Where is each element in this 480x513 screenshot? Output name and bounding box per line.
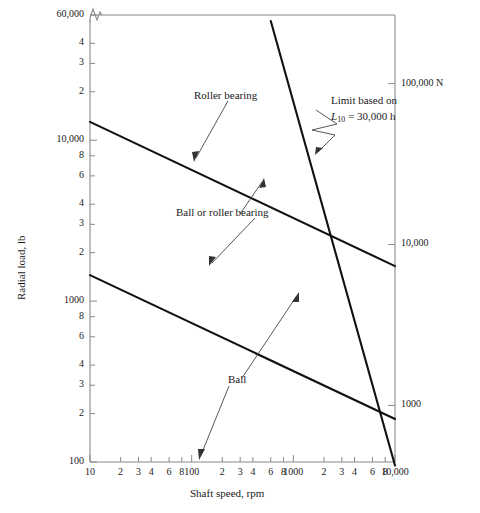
- series-roller-bearing: [90, 122, 395, 266]
- y-tick-label-4000: 4: [18, 198, 84, 208]
- leader-ball-up: [242, 297, 296, 378]
- limit-L-subscript: 10: [337, 115, 345, 124]
- y-tick-label-6000: 6: [18, 170, 84, 180]
- annotation-limit-line1: Limit based on: [331, 95, 397, 106]
- y-tick-label-100: 100: [18, 456, 84, 466]
- y-tick-label-10000: 10,000: [18, 134, 84, 144]
- y-tick-label-40000: 4: [18, 37, 84, 47]
- y-tick-label-2000: 2: [18, 247, 84, 257]
- y-axis-right-ticks: [388, 84, 395, 406]
- x-axis-ticks: [90, 455, 395, 462]
- leader-ball-down: [201, 386, 229, 455]
- y-tick-label-200: 2: [18, 408, 84, 418]
- arrowhead-ball-down: [198, 449, 205, 460]
- arrowhead-ball-up: [292, 292, 299, 302]
- data-series-group: [90, 21, 395, 466]
- y-right-tick-label-10000: 10,000: [401, 238, 480, 248]
- arrowhead-roller-bearing: [192, 151, 199, 162]
- y-axis-title: Radial load, lb: [16, 236, 27, 300]
- y-right-tick-label-100000: 100,000 N: [401, 78, 480, 88]
- annotation-leaders: [192, 101, 337, 460]
- annotation-roller-bearing: Roller bearing: [194, 90, 257, 101]
- y-tick-label-30000: 3: [18, 57, 84, 67]
- x-tick-label-10000: 10,000: [373, 467, 417, 477]
- annotation-ball-or-roller-bearing: Ball or roller bearing: [176, 207, 269, 218]
- arrowhead-ball-or-roller-up: [259, 178, 266, 188]
- annotation-ball: Ball: [228, 374, 246, 385]
- arrowhead-ball-or-roller-down: [209, 256, 216, 266]
- leader-ball-or-roller-down: [212, 218, 255, 263]
- y-axis-ticks: [90, 15, 97, 462]
- series-limit-based-on-l10-30-000-h: [271, 21, 395, 466]
- leader-roller-bearing: [196, 101, 228, 158]
- series-ball-or-roller-bearing: [90, 275, 395, 419]
- y-tick-label-20000: 2: [18, 86, 84, 96]
- y-right-tick-label-1000: 1000: [401, 399, 480, 409]
- bearing-load-speed-chart: 60,00043210,00086432100086432100 100,000…: [0, 0, 480, 513]
- limit-value: = 30,000 h: [348, 110, 395, 122]
- plot-frame: [90, 15, 395, 462]
- y-tick-label-60000: 60,000: [18, 9, 84, 19]
- y-tick-label-3000: 3: [18, 218, 84, 228]
- y-tick-label-800: 8: [18, 311, 84, 321]
- x-axis-title: Shaft speed, rpm: [190, 488, 264, 499]
- annotation-limit-line2: L10= 30,000 h: [331, 111, 396, 124]
- y-tick-label-300: 3: [18, 379, 84, 389]
- arrowhead-limit: [315, 147, 323, 155]
- y-tick-label-8000: 8: [18, 150, 84, 160]
- y-tick-label-600: 6: [18, 331, 84, 341]
- y-tick-label-1000: 1000: [18, 295, 84, 305]
- y-tick-label-400: 4: [18, 359, 84, 369]
